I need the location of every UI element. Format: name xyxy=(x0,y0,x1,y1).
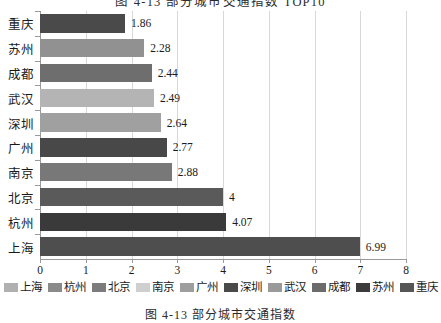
x-axis-tick xyxy=(315,259,316,263)
bar-value-label: 4 xyxy=(229,191,235,203)
bar-value-label: 6.99 xyxy=(366,241,386,253)
x-axis-tick xyxy=(360,259,361,263)
legend-label: 成都 xyxy=(328,282,350,294)
legend-label: 苏州 xyxy=(372,282,394,294)
x-axis-tick xyxy=(132,259,133,263)
chart-caption: 图 4-13 部分城市交通指数 xyxy=(0,305,441,323)
legend-item: 深圳 xyxy=(224,282,262,294)
bar-row: 2.77 xyxy=(40,135,406,160)
legend-item: 武汉 xyxy=(268,282,306,294)
legend-item: 北京 xyxy=(92,282,130,294)
legend-swatch xyxy=(312,283,326,292)
bar-value-label: 1.86 xyxy=(131,17,151,29)
chart-legend: 上海杭州北京南京广州深圳武汉成都苏州重庆 xyxy=(0,282,441,294)
bar xyxy=(40,64,152,82)
bar-value-label: 2.77 xyxy=(173,141,193,153)
bar-row: 1.86 xyxy=(40,11,406,36)
legend-label: 深圳 xyxy=(240,282,262,294)
legend-item: 成都 xyxy=(312,282,350,294)
bar xyxy=(40,89,154,107)
bar-value-label: 2.44 xyxy=(158,67,178,79)
legend-label: 上海 xyxy=(20,282,42,294)
y-axis-category-label: 杭州 xyxy=(3,212,39,231)
y-axis-category-label: 武汉 xyxy=(3,88,39,107)
bar-row: 4 xyxy=(40,185,406,210)
y-axis-category-label: 上海 xyxy=(3,237,39,256)
y-axis-category-label: 重庆 xyxy=(3,14,39,33)
bar xyxy=(40,213,226,231)
legend-swatch xyxy=(48,283,62,292)
legend-swatch xyxy=(180,283,194,292)
x-axis-tick-label: 2 xyxy=(129,264,135,276)
legend-item: 苏州 xyxy=(356,282,394,294)
x-axis-tick xyxy=(40,259,41,263)
bar xyxy=(40,163,172,181)
legend-label: 杭州 xyxy=(64,282,86,294)
legend-item: 南京 xyxy=(136,282,174,294)
gridline xyxy=(406,11,407,259)
x-axis-tick xyxy=(406,259,407,263)
x-axis-tick-label: 1 xyxy=(83,264,89,276)
x-axis-tick xyxy=(86,259,87,263)
bar-value-label: 2.64 xyxy=(167,117,187,129)
bar-value-label: 2.88 xyxy=(178,166,198,178)
legend-swatch xyxy=(268,283,282,292)
plot-area: 1.862.282.442.492.642.772.8844.076.99 xyxy=(40,11,406,259)
x-axis-tick-label: 3 xyxy=(174,264,180,276)
x-axis-tick xyxy=(269,259,270,263)
x-axis-tick-label: 4 xyxy=(220,264,226,276)
bar-row: 2.49 xyxy=(40,85,406,110)
bar-row: 6.99 xyxy=(40,234,406,259)
y-axis-category-label: 广州 xyxy=(3,138,39,157)
x-axis-tick-label: 0 xyxy=(37,264,43,276)
bar-row: 4.07 xyxy=(40,209,406,234)
y-axis-labels: 重庆苏州成都武汉深圳广州南京北京杭州上海 xyxy=(0,11,39,259)
bar xyxy=(40,14,125,32)
legend-item: 重庆 xyxy=(400,282,438,294)
y-axis-category-label: 成都 xyxy=(3,64,39,83)
bar-value-label: 2.28 xyxy=(150,42,170,54)
x-axis: 012345678 xyxy=(40,259,406,279)
bar xyxy=(40,113,161,131)
x-axis-tick xyxy=(177,259,178,263)
legend-swatch xyxy=(4,283,18,292)
legend-label: 重庆 xyxy=(416,282,438,294)
bar-row: 2.88 xyxy=(40,160,406,185)
x-axis-tick-label: 5 xyxy=(266,264,272,276)
legend-swatch xyxy=(356,283,370,292)
bar xyxy=(40,188,223,206)
y-axis-category-label: 南京 xyxy=(3,163,39,182)
legend-item: 上海 xyxy=(4,282,42,294)
legend-label: 武汉 xyxy=(284,282,306,294)
bar-row: 2.64 xyxy=(40,110,406,135)
bar-value-label: 2.49 xyxy=(160,92,180,104)
bar xyxy=(40,138,167,156)
bar-row: 2.44 xyxy=(40,61,406,86)
bar-row: 2.28 xyxy=(40,36,406,61)
chart-title: 图 4-13 部分城市交通指数 TOP10 xyxy=(0,0,441,10)
legend-swatch xyxy=(92,283,106,292)
legend-label: 广州 xyxy=(196,282,218,294)
x-axis-tick-label: 6 xyxy=(312,264,318,276)
legend-item: 杭州 xyxy=(48,282,86,294)
x-axis-tick-label: 7 xyxy=(357,264,363,276)
x-axis-tick-label: 8 xyxy=(403,264,409,276)
legend-swatch xyxy=(400,283,414,292)
bar xyxy=(40,237,360,255)
bar xyxy=(40,39,144,57)
legend-swatch xyxy=(136,283,150,292)
legend-item: 广州 xyxy=(180,282,218,294)
y-axis-category-label: 深圳 xyxy=(3,113,39,132)
x-axis-tick xyxy=(223,259,224,263)
y-axis-category-label: 北京 xyxy=(3,188,39,207)
legend-label: 北京 xyxy=(108,282,130,294)
legend-swatch xyxy=(224,283,238,292)
legend-label: 南京 xyxy=(152,282,174,294)
y-axis-category-label: 苏州 xyxy=(3,39,39,58)
bar-value-label: 4.07 xyxy=(232,216,252,228)
